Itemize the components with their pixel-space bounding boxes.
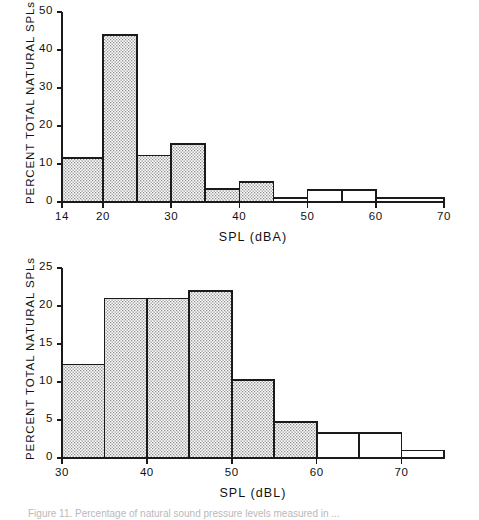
x-tick-label: 30 bbox=[47, 466, 77, 478]
y-tick-label: 10 bbox=[23, 374, 53, 386]
x-tick-label: 50 bbox=[293, 210, 323, 222]
histogram-bar bbox=[359, 433, 401, 458]
histogram-bar bbox=[274, 422, 316, 458]
y-tick-label: 5 bbox=[23, 412, 53, 424]
x-tick-label: 70 bbox=[429, 210, 459, 222]
bars-group bbox=[62, 35, 444, 202]
y-tick-label: 30 bbox=[23, 80, 53, 92]
histogram-bar bbox=[402, 450, 444, 458]
chart-panel-top: PERCENT TOTAL NATURAL SPLs 0102030405014… bbox=[0, 0, 479, 250]
x-tick-label: 30 bbox=[156, 210, 186, 222]
y-tick-label: 10 bbox=[23, 156, 53, 168]
plot-area-bottom: 05101520253040506070 bbox=[62, 268, 444, 458]
x-tick-label: 60 bbox=[361, 210, 391, 222]
histogram-bar bbox=[147, 298, 189, 458]
histogram-bar bbox=[205, 189, 239, 202]
histogram-bar bbox=[62, 158, 103, 202]
histogram-bar bbox=[308, 190, 342, 202]
x-tick-label: 40 bbox=[132, 466, 162, 478]
y-axis-title-top: PERCENT TOTAL NATURAL SPLs bbox=[24, 1, 36, 204]
bars-group bbox=[62, 291, 444, 458]
histogram-bar bbox=[239, 182, 273, 202]
chart-svg-bottom bbox=[62, 268, 472, 472]
y-tick-label: 25 bbox=[23, 260, 53, 272]
figure-caption: Figure 11. Percentage of natural sound p… bbox=[28, 508, 469, 520]
histogram-bar bbox=[104, 298, 146, 458]
histogram-bar bbox=[317, 433, 359, 458]
x-tick-label: 50 bbox=[217, 466, 247, 478]
x-tick-label: 14 bbox=[47, 210, 77, 222]
histogram-bar bbox=[137, 156, 171, 202]
x-axis-title-top: SPL (dBA) bbox=[62, 230, 444, 244]
y-tick-label: 40 bbox=[23, 42, 53, 54]
y-tick-label: 0 bbox=[23, 450, 53, 462]
x-tick-label: 20 bbox=[88, 210, 118, 222]
histogram-bar bbox=[189, 291, 231, 458]
chart-svg-top bbox=[62, 12, 472, 216]
y-tick-label: 20 bbox=[23, 298, 53, 310]
y-tick-label: 20 bbox=[23, 118, 53, 130]
chart-panel-bottom: PERCENT TOTAL NATURAL SPLs 0510152025304… bbox=[0, 252, 479, 500]
y-tick-label: 0 bbox=[23, 194, 53, 206]
x-tick-label: 70 bbox=[387, 466, 417, 478]
y-tick-label: 15 bbox=[23, 336, 53, 348]
x-tick-label: 60 bbox=[302, 466, 332, 478]
y-tick-label: 50 bbox=[23, 4, 53, 16]
x-axis-title-bottom: SPL (dBL) bbox=[62, 486, 444, 500]
histogram-bar bbox=[103, 35, 137, 202]
x-tick-label: 40 bbox=[224, 210, 254, 222]
histogram-bar bbox=[171, 144, 205, 202]
histogram-bar bbox=[342, 190, 376, 202]
y-axis-title-bottom: PERCENT TOTAL NATURAL SPLs bbox=[24, 257, 36, 460]
plot-area-top: 0102030405014203040506070 bbox=[62, 12, 444, 202]
histogram-bar bbox=[232, 380, 274, 458]
figure-two-histograms: PERCENT TOTAL NATURAL SPLs 0102030405014… bbox=[0, 0, 479, 520]
histogram-bar bbox=[62, 365, 104, 458]
